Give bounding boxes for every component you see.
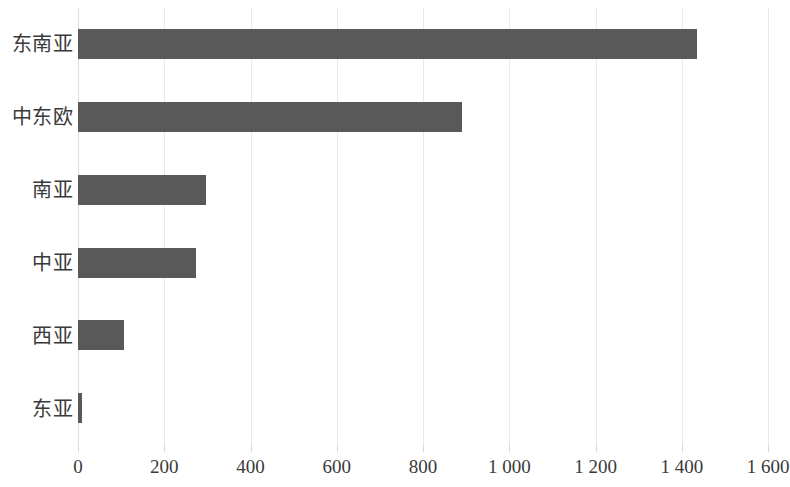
- bar-row: [78, 81, 768, 154]
- x-tick-mark-200: [164, 445, 165, 452]
- x-tick-mark-400: [251, 445, 252, 452]
- x-tick-mark-600: [337, 445, 338, 452]
- y-axis-category-labels: 东南亚中东欧南亚中亚西亚东亚: [0, 8, 73, 445]
- x-tick-mark-1400: [682, 445, 683, 452]
- x-axis: 02004006008001 0001 2001 4001 600: [78, 445, 768, 487]
- bar-row: [78, 299, 768, 372]
- category-label: 东亚: [32, 399, 73, 419]
- x-tick-label: 1 000: [488, 457, 531, 476]
- bar: [78, 175, 206, 205]
- category-label: 东南亚: [12, 34, 74, 54]
- x-tick-label: 600: [323, 457, 352, 476]
- bar-row: [78, 154, 768, 227]
- gridline-1600: [768, 8, 769, 445]
- plot-area: [78, 8, 768, 445]
- bar: [78, 248, 196, 278]
- x-tick-mark-0: [78, 445, 79, 452]
- x-tick-label: 1 400: [660, 457, 703, 476]
- category-label-row: 西亚: [0, 299, 73, 372]
- bar-row: [78, 8, 768, 81]
- bar-chart: 东南亚中东欧南亚中亚西亚东亚 02004006008001 0001 2001 …: [0, 0, 790, 487]
- category-label: 南亚: [32, 180, 73, 200]
- bar: [78, 29, 697, 59]
- category-label: 西亚: [32, 326, 73, 346]
- category-label: 中亚: [32, 253, 73, 273]
- bar: [78, 320, 124, 350]
- x-tick-label: 1 200: [574, 457, 617, 476]
- x-tick-mark-800: [423, 445, 424, 452]
- x-tick-label: 1 600: [747, 457, 790, 476]
- category-label-row: 中东欧: [0, 81, 73, 154]
- x-tick-label: 200: [150, 457, 179, 476]
- x-tick-label: 0: [73, 457, 83, 476]
- category-label-row: 中亚: [0, 227, 73, 300]
- bar: [78, 102, 462, 132]
- bar: [78, 393, 82, 423]
- x-tick-mark-1200: [596, 445, 597, 452]
- x-tick-label: 400: [236, 457, 265, 476]
- category-label: 中东欧: [12, 107, 74, 127]
- x-tick-mark-1000: [509, 445, 510, 452]
- category-label-row: 南亚: [0, 154, 73, 227]
- bars-layer: [78, 8, 768, 445]
- x-tick-label: 800: [409, 457, 438, 476]
- category-label-row: 东亚: [0, 372, 73, 445]
- bar-row: [78, 372, 768, 445]
- bar-row: [78, 227, 768, 300]
- category-label-row: 东南亚: [0, 8, 73, 81]
- x-tick-mark-1600: [768, 445, 769, 452]
